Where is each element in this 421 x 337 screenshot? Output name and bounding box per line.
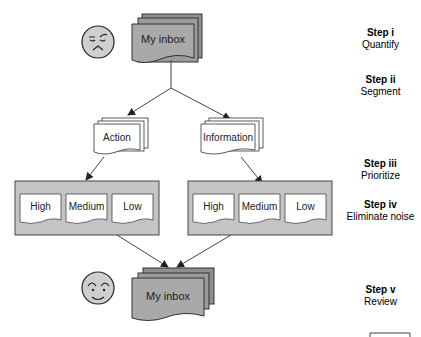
action-label: Action [94,132,140,143]
step-description: Review [340,296,421,308]
step-number: Step iv [340,199,421,211]
information-high-label: High [193,201,234,212]
step-4: Step iv Eliminate noise [340,199,421,223]
step-number: Step iii [340,158,421,170]
step-description: Segment [340,86,421,98]
bottom-inbox-label: My inbox [132,290,204,302]
smiling-face-icon [82,272,114,304]
step-description: Eliminate noise [340,211,421,223]
step-2: Step ii Segment [340,74,421,98]
step-5: Step v Review [340,284,421,308]
action-low-label: Low [112,201,153,212]
step-description: Quantify [340,39,421,51]
information-medium-label: Medium [239,201,280,212]
step-number: Step v [340,284,421,296]
information-label: Information [201,132,255,143]
information-low-label: Low [285,201,326,212]
step-1: Step i Quantify [340,27,421,51]
frowning-face-icon [82,26,114,58]
top-inbox-label: My inbox [132,33,194,45]
action-high-label: High [20,201,61,212]
step-number: Step ii [340,74,421,86]
step-3: Step iii Prioritize [340,158,421,182]
step-description: Prioritize [340,170,421,182]
action-medium-label: Medium [66,201,107,212]
step-number: Step i [340,27,421,39]
page-fragment [370,333,410,337]
